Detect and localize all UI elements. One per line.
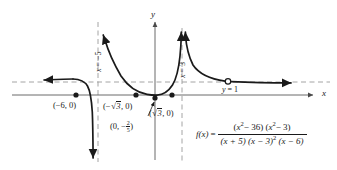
formula-fraction: (x2− 36) (x2− 3) (x + 5) (x − 3)2 (x − 6… [218,122,307,146]
formula-equals: = [211,129,216,139]
curve-right-branch [186,36,226,81]
paren-close: , 0) [121,101,132,111]
rational-function-figure: y x x = −5 x = 3 y = 1 (−6, 0) (−√3, 0) … [0,0,337,170]
hole-marker-x6 [225,79,230,84]
paren-close: , 0) [162,108,173,118]
fraction-two-fifths: 25 [126,120,130,134]
sqrt-icon: √3 [111,101,121,111]
point-label-pos-sqrt3: (√3, 0) [149,108,174,118]
y-intercept-suffix: ) [130,121,133,131]
paren-open: (− [103,101,111,111]
vertical-asymptote-left-label: x = −5 [95,51,103,72]
formula-function-name: f(x) [196,129,209,139]
x-axis-label: x [322,89,326,98]
curve-left-branch-main [73,79,93,158]
formula-denominator: (x + 5) (x − 3)2 (x − 6) [218,135,307,147]
point-label-neg-sqrt3: (−√3, 0) [103,101,132,111]
vertical-asymptote-right-label: x = 3 [179,62,187,78]
curve-middle-branch-arrow-left [103,35,106,43]
y-axis-label: y [151,10,155,19]
point-label-neg6: (−6, 0) [53,101,76,110]
curve-right-branch-tail [231,82,291,83]
y-intercept-prefix: (0, − [110,121,126,131]
curve-middle-branch [105,36,181,95]
point-marker-neg-sqrt3 [133,92,138,97]
point-marker-y-intercept [152,95,157,100]
function-formula: f(x) = (x2− 36) (x2− 3) (x + 5) (x − 3)2… [196,122,307,146]
point-marker-neg6 [73,92,78,97]
curve-left-branch [44,79,73,80]
point-label-y-intercept: (0, −25) [110,120,133,134]
formula-numerator: (x2− 36) (x2− 3) [218,122,307,135]
point-marker-pos-sqrt3 [169,92,174,97]
sqrt-icon: √3 [152,108,162,118]
horizontal-asymptote-label: y = 1 [222,86,238,94]
